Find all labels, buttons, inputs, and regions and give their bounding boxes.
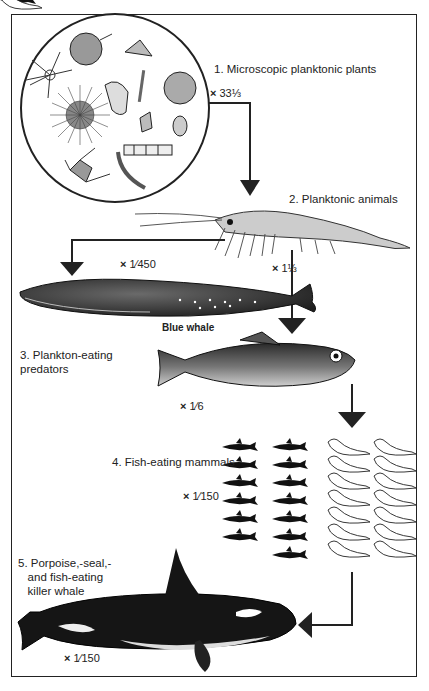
stage-2-label: 2. Planktonic animals (289, 192, 398, 206)
stage-1-label: 1. Microscopic planktonic plants (214, 62, 376, 76)
stage-2-scale: ×1⅓ (272, 262, 297, 274)
herring-scale: ×1⁄6 (180, 400, 204, 412)
blue-whale-caption: Blue whale (162, 322, 214, 333)
krill-illustration (135, 211, 410, 258)
times-icon: × (272, 262, 278, 274)
stage-4-scale: ×1⁄150 (183, 490, 219, 502)
times-icon: × (120, 258, 126, 270)
times-icon: × (183, 490, 189, 502)
times-icon: × (64, 652, 70, 664)
arrow-down-icon (338, 412, 366, 428)
stage-4-label: 4. Fish-eating mammals (112, 455, 235, 469)
arrow-down-icon (60, 262, 84, 276)
times-icon: × (180, 400, 186, 412)
arrow-down-icon (240, 180, 260, 196)
stage-3-label: 3. Plankton-eating predators (20, 348, 113, 376)
herring-fish-illustration (158, 332, 355, 386)
arrow-down-icon (278, 318, 306, 334)
stage-5-label: 5. Porpoise,-seal,- and fish-eating kill… (18, 556, 111, 598)
stage-1-scale: ×33⅓ (210, 87, 241, 99)
blue-whale-illustration (20, 279, 316, 316)
stage-5-scale: ×1⁄150 (64, 652, 100, 664)
times-icon: × (210, 87, 216, 99)
plankton-circle (21, 14, 209, 202)
blue-whale-scale: ×1⁄450 (120, 258, 156, 270)
arrow-left-icon (298, 612, 312, 638)
